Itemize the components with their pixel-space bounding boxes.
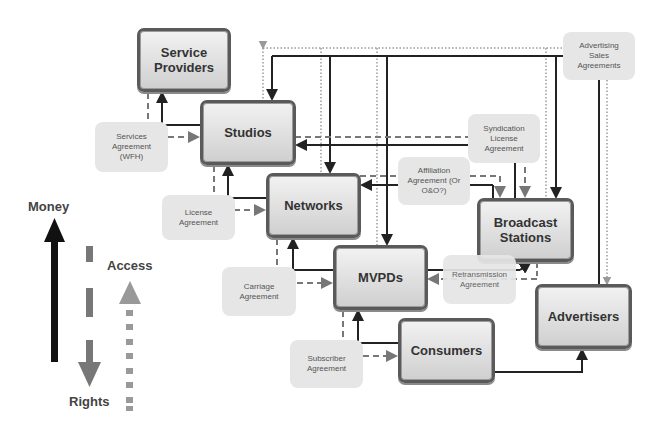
agreement-services: Services Agreement (WFH) <box>95 122 168 172</box>
legend-rights-label: Rights <box>69 394 109 409</box>
node-label: Service Providers <box>140 45 228 75</box>
agreement-label: Syndication License Agreement <box>478 124 530 154</box>
node-advertisers: Advertisers <box>535 284 632 349</box>
agreement-license: License Agreement <box>162 195 235 240</box>
node-label: Networks <box>284 198 343 213</box>
agreement-syndication: Syndication License Agreement <box>468 114 540 163</box>
node-label: Advertisers <box>548 309 620 324</box>
legend-money-label: Money <box>28 199 69 214</box>
agreement-label: License Agreement <box>174 208 224 228</box>
node-mvpds: MVPDs <box>333 245 428 310</box>
agreement-label: Retransmission Agreement <box>448 270 512 290</box>
node-label: Studios <box>224 125 272 140</box>
node-networks: Networks <box>266 173 361 238</box>
node-consumers: Consumers <box>398 318 495 383</box>
agreement-label: Advertising Sales Agreements <box>572 41 626 71</box>
agreement-retransmission: Retransmission Agreement <box>443 255 516 304</box>
node-label: Consumers <box>411 343 483 358</box>
legend-access-label: Access <box>107 258 153 273</box>
agreement-subscriber: Subscriber Agreement <box>290 340 363 388</box>
agreement-label: Subscriber Agreement <box>302 354 352 374</box>
node-label: Broadcast Stations <box>491 215 561 245</box>
agreement-label: Services Agreement (WFH) <box>106 132 158 162</box>
node-service-providers: Service Providers <box>137 28 231 92</box>
node-label: MVPDs <box>358 270 403 285</box>
agreement-carriage: Carriage Agreement <box>222 267 296 316</box>
node-studios: Studios <box>200 100 296 165</box>
legend-arrows <box>44 218 141 411</box>
agreement-advertising-sales: Advertising Sales Agreements <box>563 32 635 80</box>
agreement-label: Affiliation Agreement (Or O&O?) <box>406 166 462 196</box>
agreement-affiliation: Affiliation Agreement (Or O&O?) <box>398 157 470 205</box>
node-broadcast-stations: Broadcast Stations <box>477 198 574 262</box>
agreement-label: Carriage Agreement <box>234 282 284 302</box>
